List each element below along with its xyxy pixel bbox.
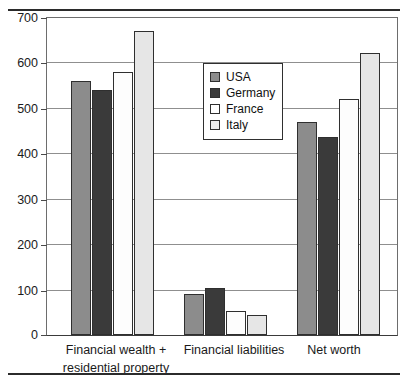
ytick-mark-0 <box>41 335 47 336</box>
bar-usa-net-worth[interactable] <box>297 122 317 336</box>
bar-usa-financial-wealth[interactable] <box>71 81 91 335</box>
bar-germany-financial-liabilities[interactable] <box>205 288 225 335</box>
legend-item-france[interactable]: France <box>210 101 276 117</box>
ytick-label-400: 400 <box>17 147 38 161</box>
ytick-label-600: 600 <box>17 56 38 70</box>
legend-label-usa: USA <box>226 71 251 83</box>
ytick-mark-300 <box>41 200 47 201</box>
legend-item-italy[interactable]: Italy <box>210 117 276 133</box>
bar-france-financial-wealth[interactable] <box>113 72 133 335</box>
ytick-mark-200 <box>41 245 47 246</box>
bar-group-financial-wealth <box>71 17 154 335</box>
bar-usa-financial-liabilities[interactable] <box>184 294 204 335</box>
ytick-label-0: 0 <box>31 328 38 342</box>
figure-container: 700 600 500 400 300 200 100 0 <box>0 0 408 386</box>
ytick-mark-600 <box>41 63 47 64</box>
chart-legend: USA Germany France Italy <box>203 63 283 140</box>
category-label-net-worth-line1: Net worth <box>264 341 404 359</box>
legend-item-germany[interactable]: Germany <box>210 85 276 101</box>
ytick-label-300: 300 <box>17 193 38 207</box>
bar-italy-net-worth[interactable] <box>360 53 380 335</box>
figure-bottom-rule <box>8 373 400 375</box>
legend-swatch-germany-icon <box>210 88 220 98</box>
bar-germany-financial-wealth[interactable] <box>92 90 112 335</box>
bar-france-net-worth[interactable] <box>339 99 359 335</box>
category-label-net-worth: Net worth <box>264 341 404 359</box>
legend-item-usa[interactable]: USA <box>210 69 276 85</box>
ytick-label-100: 100 <box>17 284 38 298</box>
legend-label-italy: Italy <box>226 119 248 131</box>
bar-italy-financial-liabilities[interactable] <box>247 315 267 335</box>
ytick-mark-100 <box>41 291 47 292</box>
legend-swatch-usa-icon <box>210 72 220 82</box>
legend-swatch-italy-icon <box>210 120 220 130</box>
ytick-mark-700 <box>41 18 47 19</box>
bar-germany-net-worth[interactable] <box>318 137 338 335</box>
legend-swatch-france-icon <box>210 104 220 114</box>
ytick-label-700: 700 <box>17 11 38 25</box>
ytick-mark-500 <box>41 109 47 110</box>
ytick-label-200: 200 <box>17 238 38 252</box>
legend-label-france: France <box>226 103 263 115</box>
legend-label-germany: Germany <box>226 87 275 99</box>
ytick-label-500: 500 <box>17 102 38 116</box>
ytick-mark-400 <box>41 154 47 155</box>
bar-italy-financial-wealth[interactable] <box>134 31 154 335</box>
figure-top-rule <box>8 9 400 11</box>
bar-group-net-worth <box>297 17 380 335</box>
bar-france-financial-liabilities[interactable] <box>226 311 246 335</box>
